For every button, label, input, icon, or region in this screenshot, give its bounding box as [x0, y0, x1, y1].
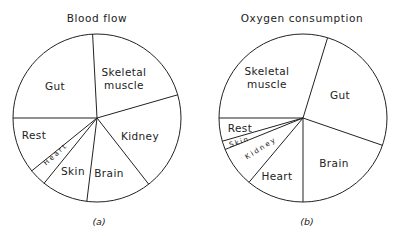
slice-boundary: [303, 38, 328, 118]
slice-label-skeletal-a-1: Skeletal: [102, 66, 147, 78]
slice-label-skeletal-b-2: muscle: [247, 78, 287, 90]
slice-label-heart-a: Heart: [42, 142, 69, 168]
caption-b: (b): [300, 216, 313, 227]
pie-chart-blood-flow: Blood flow Gut Skeletal muscle Kidney Br…: [13, 12, 181, 227]
slice-boundary: [93, 34, 97, 118]
slice-label-heart-b: Heart: [261, 170, 292, 182]
slice-boundary: [87, 118, 97, 201]
chart-title-a: Blood flow: [67, 12, 128, 24]
figure: Blood flow Gut Skeletal muscle Kidney Br…: [0, 0, 395, 236]
chart-title-b: Oxygen consumption: [241, 12, 364, 24]
slice-label-rest-b: Rest: [228, 122, 252, 134]
slice-label-skeletal-a-2: muscle: [104, 79, 144, 91]
slice-label-rest-a: Rest: [22, 129, 46, 141]
caption-a: (a): [92, 216, 105, 227]
slice-label-kidney-a: Kidney: [121, 130, 159, 142]
slice-label-gut-a: Gut: [45, 80, 65, 92]
slice-label-skeletal-b-1: Skeletal: [245, 65, 290, 77]
slice-label-skin-a: Skin: [61, 165, 85, 177]
slice-label-gut-b: Gut: [330, 89, 350, 101]
slice-label-skin-b: Skin: [228, 135, 250, 149]
pie-chart-oxygen-consumption: Oxygen consumption Skeletal muscle Gut B…: [219, 12, 387, 227]
slice-label-brain-b: Brain: [319, 157, 349, 169]
slice-boundary: [97, 95, 178, 118]
slice-label-brain-a: Brain: [94, 167, 124, 179]
slice-boundary: [303, 118, 382, 145]
